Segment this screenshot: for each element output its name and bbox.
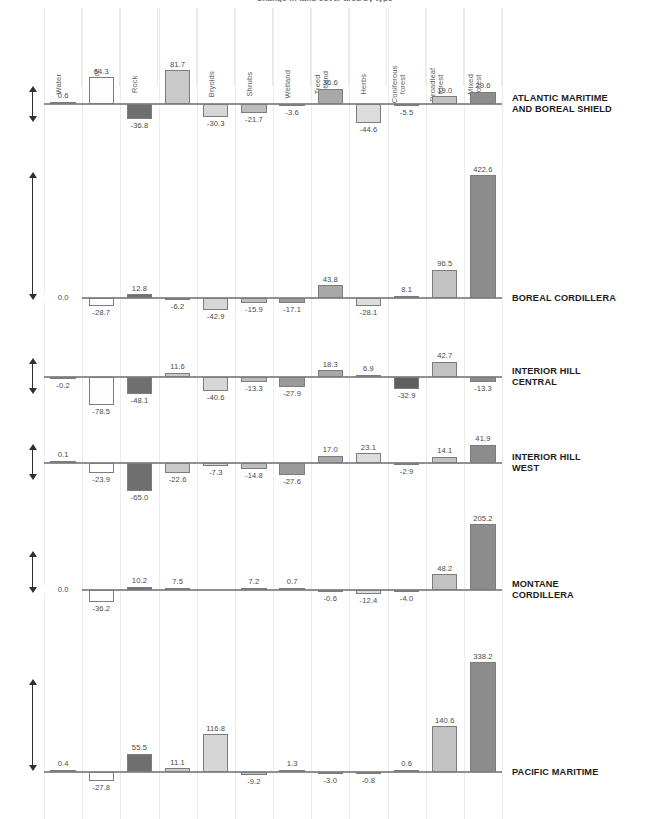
bar-water <box>50 377 75 379</box>
region-label-line: PACIFIC MARITIME <box>512 767 598 778</box>
gridline <box>235 8 236 167</box>
gridline <box>159 8 160 167</box>
bar-value-label: -40.6 <box>197 393 235 402</box>
bar-barren <box>165 298 190 300</box>
bar-value-label: -21.7 <box>235 115 273 124</box>
bar-wetland <box>279 104 304 106</box>
bar-value-label: 36.6 <box>311 78 349 87</box>
region-label-line: AND BOREAL SHIELD <box>512 104 612 115</box>
bar-coniferous-forest <box>394 104 419 106</box>
gridline <box>235 635 236 819</box>
bar-herbs <box>356 104 381 123</box>
direction-axis <box>26 679 40 771</box>
bar-rock <box>127 104 152 119</box>
bar-value-label: 0.7 <box>273 577 311 586</box>
direction-axis <box>26 172 40 300</box>
bar-treed-wetland <box>318 370 343 377</box>
bar-barren <box>165 373 190 377</box>
region-label-line: INTERIOR HILL <box>512 452 581 463</box>
bar-value-label: -15.9 <box>235 305 273 314</box>
gridline <box>44 8 45 167</box>
bar-value-label: -30.3 <box>197 119 235 128</box>
region-label: INTERIOR HILLWEST <box>512 452 581 475</box>
bar-coniferous-forest <box>394 770 419 772</box>
bar-mixed-forest <box>470 445 495 463</box>
bar-value-label: -12.4 <box>349 596 387 605</box>
bar-coniferous-forest <box>394 463 419 465</box>
bar-coniferous-forest <box>394 590 419 592</box>
bar-value-label: -0.2 <box>44 381 82 390</box>
arrow-up-icon <box>29 172 37 178</box>
bar-wetland <box>279 377 304 387</box>
axis-stem <box>32 89 33 119</box>
bar-value-label: -17.1 <box>273 305 311 314</box>
zero-axis-label: 0.0 <box>44 293 82 302</box>
bar-shrubs <box>241 463 266 469</box>
gridline <box>120 635 121 819</box>
bar-herbs <box>356 772 381 774</box>
bar-value-label: -28.7 <box>82 308 120 317</box>
axis-stem <box>32 447 33 477</box>
bar-water <box>50 770 75 772</box>
gridline <box>426 500 427 653</box>
bar-value-label: -42.9 <box>197 312 235 321</box>
region-label-line: INTERIOR HILL <box>512 366 581 377</box>
bar-value-label: 0.4 <box>44 759 82 768</box>
direction-axis <box>26 444 40 480</box>
arrow-up-icon <box>29 444 37 450</box>
bar-value-label: 11.1 <box>159 758 197 767</box>
zero-axis-label: 0.0 <box>44 585 82 594</box>
region-label: BOREAL CORDILLERA <box>512 293 616 304</box>
arrow-up-icon <box>29 86 37 92</box>
gridline <box>197 500 198 653</box>
bar-value-label: -22.6 <box>159 475 197 484</box>
bar-value-label: 43.8 <box>311 275 349 284</box>
gridline <box>159 635 160 819</box>
axis-stem <box>32 554 33 590</box>
bar-bryoids <box>203 298 228 310</box>
bar-water <box>50 461 75 463</box>
axis-stem <box>32 175 33 297</box>
bar-shrubs <box>241 377 266 382</box>
bar-value-label: -36.2 <box>82 604 120 613</box>
gridline <box>502 635 503 819</box>
bar-value-label: 12.8 <box>120 284 158 293</box>
gridline <box>349 8 350 167</box>
bar-coniferous-forest <box>394 296 419 298</box>
bar-value-label: 116.8 <box>197 724 235 733</box>
bar-coniferous-forest <box>394 377 419 389</box>
gridline <box>273 8 274 167</box>
bar-value-label: -5.5 <box>388 108 426 117</box>
region-label-line: BOREAL CORDILLERA <box>512 293 616 304</box>
bar-value-label: -6.2 <box>159 302 197 311</box>
bar-herbs <box>356 375 381 377</box>
plot-area: 0.4-27.855.511.1116.8-9.21.3-3.0-0.80.61… <box>44 635 502 819</box>
bar-value-label: -3.6 <box>273 108 311 117</box>
bar-wetland <box>279 298 304 303</box>
bar-rock <box>127 754 152 772</box>
bar-bryoids <box>203 377 228 391</box>
bar-value-label: 7.2 <box>235 577 273 586</box>
bar-broadleaf-forest <box>432 96 457 104</box>
bar-bryoids <box>203 463 228 466</box>
gridline <box>388 500 389 653</box>
gridline <box>388 8 389 167</box>
bar-value-label: 29.6 <box>464 81 502 90</box>
bar-wetland <box>279 588 304 590</box>
bar-barren <box>165 70 190 104</box>
bar-barren <box>165 768 190 772</box>
bar-snow-ice <box>89 377 114 405</box>
bar-value-label: 41.9 <box>464 434 502 443</box>
bar-broadleaf-forest <box>432 362 457 377</box>
bar-bryoids <box>203 734 228 772</box>
region-label: INTERIOR HILLCENTRAL <box>512 366 581 389</box>
gridline <box>44 500 45 653</box>
region-label: ATLANTIC MARITIMEAND BOREAL SHIELD <box>512 93 612 116</box>
arrow-up-icon <box>29 358 37 364</box>
direction-axis <box>26 86 40 122</box>
bar-value-label: -13.3 <box>464 384 502 393</box>
bar-rock <box>127 463 152 491</box>
arrow-down-icon <box>29 474 37 480</box>
bar-value-label: 140.6 <box>426 716 464 725</box>
